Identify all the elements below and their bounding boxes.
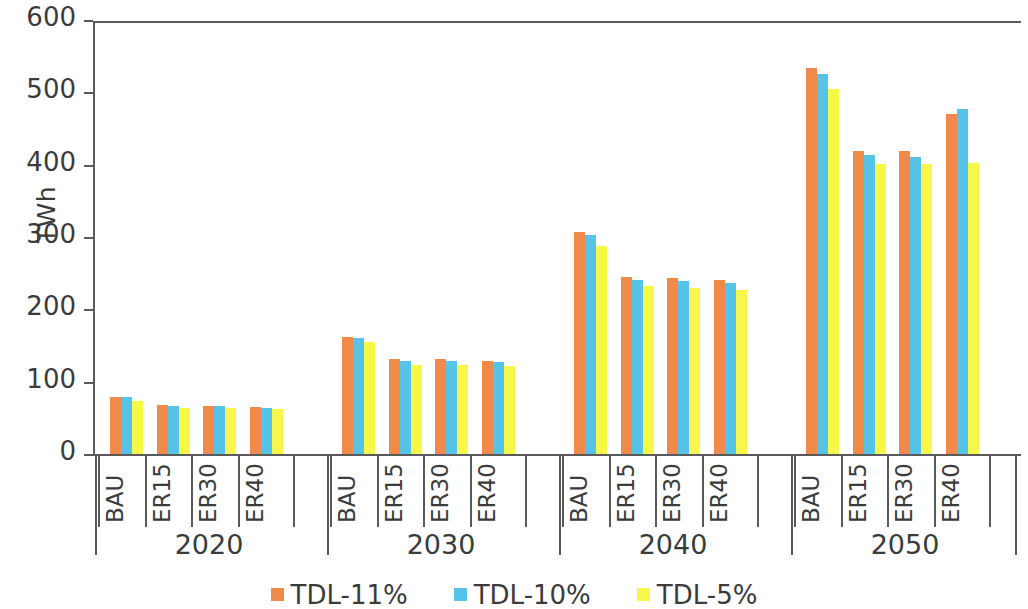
x-tick-mark: [525, 455, 527, 527]
x-tick-label-er15: ER15: [151, 451, 173, 523]
legend-label: TDL-11%: [291, 582, 408, 608]
bar: [596, 246, 607, 454]
x-tick-mark: [191, 455, 193, 527]
x-tick-mark: [702, 455, 704, 527]
x-tick-label-er40: ER40: [244, 451, 266, 523]
bar: [179, 408, 190, 454]
y-tick-label: 0: [14, 438, 76, 464]
bar: [736, 290, 747, 454]
bar: [574, 232, 585, 454]
bar: [411, 365, 422, 454]
x-tick-mark: [293, 455, 295, 527]
bar: [157, 405, 168, 454]
x-tick-mark: [757, 455, 759, 527]
bar: [214, 406, 225, 454]
x-tick-label-er40: ER40: [476, 451, 498, 523]
bar: [435, 359, 446, 454]
legend-label: TDL-5%: [657, 582, 758, 608]
x-tick-mark: [470, 455, 472, 527]
bar: [110, 397, 121, 454]
bar: [946, 114, 957, 454]
bar-chart: TWh 6005004003002001000 BAUER15ER30ER402…: [0, 0, 1028, 609]
x-tick-mark: [609, 455, 611, 527]
x-tick-mark: [562, 455, 564, 527]
legend-label: TDL-10%: [474, 582, 591, 608]
bar: [446, 361, 457, 454]
y-tick-mark: [84, 309, 93, 311]
plot-top-border: [93, 21, 1021, 23]
x-tick-label-bau: BAU: [800, 451, 822, 523]
bar: [225, 408, 236, 454]
y-tick-label: 500: [14, 76, 76, 102]
legend-swatch-icon: [271, 588, 284, 601]
bar: [899, 151, 910, 454]
bar: [853, 151, 864, 454]
y-tick-mark: [84, 92, 93, 94]
bar: [353, 338, 364, 454]
y-tick-mark: [84, 454, 93, 456]
x-group-separator: [1015, 455, 1017, 555]
x-tick-label-er30: ER30: [429, 451, 451, 523]
bar: [482, 361, 493, 454]
bar: [493, 362, 504, 454]
plot-area: [93, 21, 1021, 455]
bar: [632, 280, 643, 454]
y-tick-mark: [84, 382, 93, 384]
x-tick-mark: [887, 455, 889, 527]
x-tick-label-bau: BAU: [104, 451, 126, 523]
bar: [400, 361, 411, 454]
x-tick-mark: [330, 455, 332, 527]
x-axis: BAUER15ER30ER402020BAUER15ER30ER402030BA…: [93, 455, 1021, 555]
x-tick-label-er15: ER15: [383, 451, 405, 523]
bar: [678, 281, 689, 454]
y-tick-mark: [84, 20, 93, 22]
bar: [585, 235, 596, 454]
y-tick-label: 200: [14, 293, 76, 319]
legend-item[interactable]: TDL-5%: [637, 582, 758, 608]
x-tick-mark: [423, 455, 425, 527]
bar: [364, 342, 375, 454]
x-tick-mark: [238, 455, 240, 527]
legend-item[interactable]: TDL-11%: [271, 582, 408, 608]
bar: [921, 164, 932, 454]
bar: [667, 278, 678, 454]
bar: [806, 68, 817, 454]
y-tick-label: 400: [14, 149, 76, 175]
bar: [389, 359, 400, 454]
x-tick-mark: [934, 455, 936, 527]
bar: [261, 408, 272, 454]
bar: [875, 164, 886, 454]
bar: [342, 337, 353, 454]
bar: [168, 406, 179, 454]
x-tick-mark: [145, 455, 147, 527]
bar: [957, 109, 968, 454]
bar: [504, 366, 515, 454]
bar: [817, 74, 828, 454]
x-group-label-2020: 2020: [93, 529, 325, 560]
y-tick-mark: [84, 165, 93, 167]
x-tick-label-er30: ER30: [661, 451, 683, 523]
x-tick-label-bau: BAU: [336, 451, 358, 523]
x-group-label-2030: 2030: [325, 529, 557, 560]
bar: [121, 397, 132, 454]
legend-swatch-icon: [637, 588, 650, 601]
x-tick-mark: [841, 455, 843, 527]
bar: [725, 283, 736, 454]
bar: [910, 157, 921, 454]
plot-left-axis: [93, 21, 95, 455]
bar: [968, 163, 979, 454]
x-tick-mark: [377, 455, 379, 527]
x-tick-mark: [655, 455, 657, 527]
bar: [714, 280, 725, 454]
bar: [250, 407, 261, 454]
legend-item[interactable]: TDL-10%: [454, 582, 591, 608]
x-tick-label-er40: ER40: [708, 451, 730, 523]
bar: [864, 155, 875, 454]
y-tick-label: 300: [14, 221, 76, 247]
x-tick-label-er30: ER30: [197, 451, 219, 523]
y-tick-label: 100: [14, 366, 76, 392]
x-tick-label-bau: BAU: [568, 451, 590, 523]
bar: [643, 286, 654, 454]
x-tick-label-er15: ER15: [847, 451, 869, 523]
x-tick-mark: [98, 455, 100, 527]
